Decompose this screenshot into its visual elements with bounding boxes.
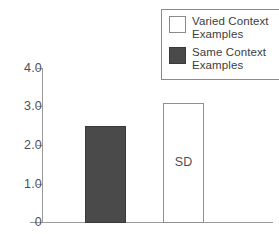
bar-varied-context: SD	[163, 103, 204, 223]
x-axis-baseline	[30, 222, 273, 223]
y-tick-label-1: 1.0	[8, 178, 42, 191]
legend-label-varied-context: Varied Context Examples	[192, 15, 269, 40]
legend-label-line2: Examples	[192, 59, 266, 72]
legend-label-line1: Same Context	[192, 46, 266, 59]
legend: Varied Context Examples Same Context Exa…	[161, 9, 279, 80]
legend-label-line1: Varied Context	[192, 15, 269, 28]
y-tick-label-2: 2.0	[8, 139, 42, 152]
y-axis-line	[42, 68, 43, 223]
bar-same-context	[85, 126, 126, 223]
bar-chart: 4.0 3.0 2.0 1.0 0 SD Varied Context Exam…	[0, 0, 279, 234]
y-tick-label-0: 0	[8, 216, 42, 229]
legend-swatch-white-square	[169, 16, 186, 33]
legend-item-same-context: Same Context Examples	[169, 46, 279, 71]
legend-item-varied-context: Varied Context Examples	[169, 15, 279, 40]
bar-inner-label-sd: SD	[164, 156, 203, 169]
legend-label-line2: Examples	[192, 28, 269, 41]
y-tick-label-3: 3.0	[8, 100, 42, 113]
legend-swatch-dark-square	[169, 47, 186, 64]
y-tick-label-4: 4.0	[8, 62, 42, 75]
legend-label-same-context: Same Context Examples	[192, 46, 266, 71]
